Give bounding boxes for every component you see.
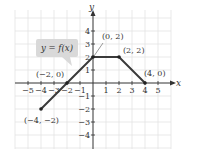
point-marker (39, 107, 43, 111)
y-axis-label: y (88, 2, 95, 12)
leader-line (94, 43, 103, 56)
y-tick-label: −1 (78, 92, 90, 101)
point-marker (65, 81, 69, 85)
x-tick-labels: −5 −4 −3 −2 −1 1 2 3 4 5 (22, 86, 160, 95)
x-tick-label: −4 (35, 86, 47, 95)
point-label: (0, 2) (102, 32, 124, 41)
x-tick-label: 4 (142, 86, 147, 95)
y-tick-label: 1 (85, 66, 90, 75)
y-tick-label: 3 (85, 40, 90, 49)
x-tick-label: 2 (116, 86, 121, 95)
y-tick-label: −3 (78, 118, 90, 127)
function-graph: y x −5 −4 −3 −2 −1 1 2 3 4 5 4 3 2 1 −1 … (0, 0, 197, 158)
x-axis-label: x (176, 78, 181, 88)
x-tick-label: 5 (155, 86, 160, 95)
x-tick-label: 3 (129, 86, 134, 95)
x-tick-label: 1 (103, 86, 108, 95)
point-marker (143, 81, 147, 85)
point-marker (117, 55, 121, 59)
y-tick-label: −4 (78, 131, 90, 140)
point-label: (2, 2) (123, 46, 145, 55)
callout-label: y = f(x) (40, 43, 73, 53)
y-tick-label: 4 (85, 27, 90, 36)
point-label: (−2, 0) (36, 70, 64, 79)
function-callout: y = f(x) (36, 39, 78, 66)
point-label: (−4, −2) (24, 116, 59, 125)
point-label: (4, 0) (144, 69, 166, 78)
x-tick-label: −5 (22, 86, 34, 95)
y-tick-label: −2 (78, 105, 90, 114)
axes (15, 12, 174, 149)
point-marker (91, 55, 95, 59)
